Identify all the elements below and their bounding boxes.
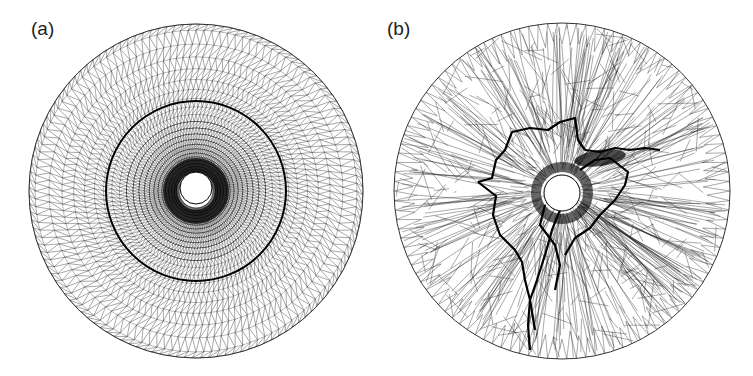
structured-mesh-a: [29, 24, 363, 358]
unstructured-mesh-b: [394, 23, 730, 359]
mesh-figure: [0, 0, 753, 376]
